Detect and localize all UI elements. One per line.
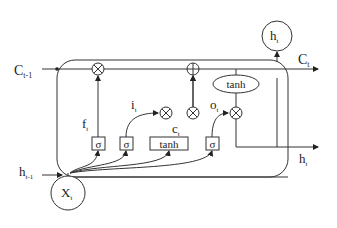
candidate-tanh-label: tanh — [160, 138, 179, 150]
input-gate-label: it — [131, 97, 137, 114]
cell-state-prev-label: Ct-1 — [14, 63, 32, 80]
input-sigma-label: σ — [124, 138, 130, 150]
output-sigma-label: σ — [210, 138, 216, 150]
x-input-label: Xt — [61, 185, 72, 202]
hidden-out-label: ht — [299, 151, 308, 168]
hidden-top-label: ht — [270, 28, 279, 45]
cell-tanh-label: tanh — [227, 78, 246, 90]
hidden-prev-label: ht-1 — [19, 164, 34, 181]
forget-sigma-label: σ — [96, 138, 102, 150]
candidate-label: ct — [172, 121, 180, 138]
forget-gate-label: ft — [82, 116, 88, 133]
cell-state-label: Ct — [298, 52, 310, 69]
lstm-diagram: Ct-1 Ct ht ht ht-1 Xt ft it ct ot σ σ ta… — [0, 0, 337, 228]
output-gate-label: ot — [210, 97, 219, 114]
